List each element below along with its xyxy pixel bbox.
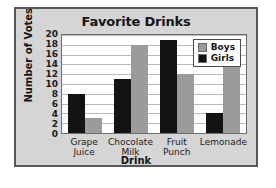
y-axis-tick: 6 xyxy=(38,100,58,108)
x-axis-tick: Lemonade xyxy=(200,137,247,157)
chart-title: Favorite Drinks xyxy=(16,14,256,29)
bar-girls xyxy=(68,94,85,133)
y-axis-tick: 18 xyxy=(38,40,58,48)
x-axis-tick: ChocolateMilk xyxy=(107,137,153,157)
y-axis-tick: 20 xyxy=(38,30,58,38)
y-axis-tick: 8 xyxy=(38,90,58,98)
y-axis-tick: 14 xyxy=(38,60,58,68)
y-axis-tick: 16 xyxy=(38,50,58,58)
x-axis-tick-line: Lemonade xyxy=(200,137,247,147)
bar-group xyxy=(62,35,108,133)
y-axis-tick: 0 xyxy=(38,130,58,138)
x-axis-tick-line: Fruit xyxy=(154,137,200,147)
legend-label: Boys xyxy=(211,42,235,52)
x-axis-tick-line: Grape xyxy=(61,137,107,147)
x-axis-tick: GrapeJuice xyxy=(61,137,107,157)
y-axis-tick: 10 xyxy=(38,80,58,88)
y-axis-tick: 12 xyxy=(38,70,58,78)
bar-boys xyxy=(131,45,148,133)
legend-item: Boys xyxy=(198,42,235,52)
x-axis-tick: FruitPunch xyxy=(154,137,200,157)
y-axis-label: Number of Votes xyxy=(23,31,34,103)
bar-boys xyxy=(177,74,194,133)
chart-panel: Favorite Drinks Number of Votes 02468101… xyxy=(14,7,258,167)
legend-swatch-icon xyxy=(198,54,207,63)
x-axis-tick-line: Chocolate xyxy=(107,137,153,147)
legend-item: Girls xyxy=(198,53,235,63)
bar-girls xyxy=(160,40,177,133)
bar-girls xyxy=(206,113,223,133)
legend-swatch-icon xyxy=(198,43,207,52)
legend: BoysGirls xyxy=(193,39,241,67)
y-axis-tick: 4 xyxy=(38,110,58,118)
bar-group xyxy=(108,35,154,133)
legend-label: Girls xyxy=(211,53,234,63)
plot-area: BoysGirls xyxy=(61,34,247,134)
y-axis-tick: 2 xyxy=(38,120,58,128)
x-axis-tick-labels: GrapeJuiceChocolateMilkFruitPunchLemonad… xyxy=(61,137,247,157)
bar-boys xyxy=(85,118,102,133)
bar-girls xyxy=(114,79,131,133)
x-axis-label: Drink xyxy=(16,155,256,166)
y-axis-tick-labels: 02468101214161820 xyxy=(38,34,58,134)
